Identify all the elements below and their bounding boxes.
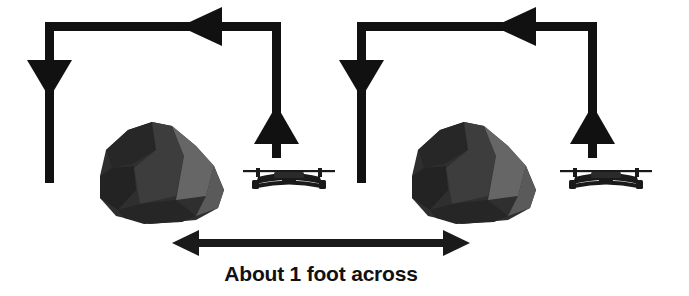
flight-path-right-descend-shaft — [357, 22, 366, 183]
flight-path-left-descend-shaft — [45, 22, 54, 183]
drone-right-rotor-hub-left — [573, 168, 577, 177]
drone-left-rotor-hub-right — [318, 168, 322, 177]
flight-path-left-top-bar — [45, 22, 281, 31]
measurement-caption: About 1 foot across — [224, 262, 417, 285]
drone-left-canopy — [274, 172, 304, 178]
drone-right-landing-leg-right — [636, 180, 643, 189]
drone-right-rotor-hub-right — [635, 168, 639, 177]
diagram-canvas: About 1 foot across — [0, 0, 689, 296]
drone-left-rotor-hub-left — [256, 168, 260, 177]
drone-left-center-mass — [282, 178, 296, 184]
diagram-background — [0, 0, 689, 296]
drone-right-center-mass — [599, 178, 613, 184]
drone-rock-survey-diagram: About 1 foot across — [0, 0, 689, 296]
drone-right-canopy — [591, 172, 621, 178]
measurement-arrow-shaft — [192, 239, 450, 247]
drone-left-landing-leg-left — [252, 180, 259, 189]
flight-path-right-top-bar — [357, 22, 597, 31]
drone-left-landing-leg-right — [319, 180, 326, 189]
drone-right-landing-leg-left — [569, 180, 576, 189]
